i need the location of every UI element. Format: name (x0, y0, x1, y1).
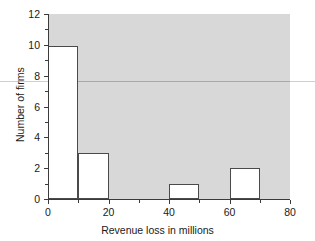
x-tick-minor-70 (260, 200, 261, 203)
stray-horizontal-rule-overlay (48, 81, 290, 82)
y-tick-label-10: 10 (20, 40, 40, 51)
x-tick-60 (230, 200, 231, 204)
x-tick-label-0: 0 (45, 207, 51, 218)
y-axis-title: Number of firms (15, 67, 26, 142)
x-tick-label-40: 40 (163, 207, 175, 218)
y-tick-minor-9 (45, 60, 48, 61)
y-tick-minor-3 (45, 153, 48, 154)
y-tick-2 (44, 168, 48, 169)
x-tick-40 (169, 200, 170, 204)
y-tick-minor-7 (45, 91, 48, 92)
x-tick-minor-50 (199, 200, 200, 203)
x-tick-label-60: 60 (224, 207, 236, 218)
y-tick-12 (44, 14, 48, 15)
x-tick-minor-10 (78, 200, 79, 203)
y-tick-label-2: 2 (20, 163, 40, 174)
x-tick-minor-30 (139, 200, 140, 203)
x-tick-label-80: 80 (284, 207, 296, 218)
x-axis-title: Revenue loss in millions (0, 225, 315, 236)
y-tick-10 (44, 45, 48, 46)
x-tick-80 (290, 200, 291, 204)
bar-bin-0-10 (48, 46, 78, 199)
y-tick-minor-11 (45, 29, 48, 30)
x-tick-20 (109, 200, 110, 204)
y-tick-6 (44, 107, 48, 108)
bar-bin-10-20 (78, 153, 108, 199)
y-tick-label-0: 0 (20, 194, 40, 205)
y-tick-minor-5 (45, 122, 48, 123)
histogram-figure: 0 2 4 6 8 10 12 0 20 40 60 80 Revenue lo… (0, 0, 315, 241)
bar-bin-40-50 (169, 184, 199, 199)
y-axis-line (48, 14, 49, 200)
y-tick-label-12: 12 (20, 9, 40, 20)
x-tick-label-20: 20 (103, 207, 115, 218)
bar-bin-60-70 (230, 168, 260, 199)
x-tick-0 (48, 200, 49, 204)
y-tick-8 (44, 76, 48, 77)
y-tick-4 (44, 137, 48, 138)
y-tick-minor-1 (45, 184, 48, 185)
